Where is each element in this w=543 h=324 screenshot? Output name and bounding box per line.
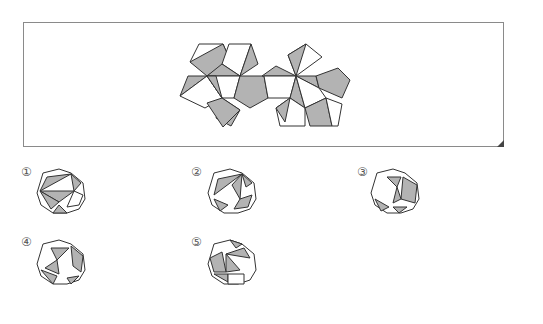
option-solid-1[interactable] bbox=[37, 169, 85, 213]
option-label-5[interactable]: ⑤ bbox=[191, 236, 202, 248]
option-label-2[interactable]: ② bbox=[191, 166, 202, 178]
option-solid-5[interactable] bbox=[208, 240, 256, 284]
diagram-canvas bbox=[0, 0, 543, 324]
option-solid-2[interactable] bbox=[208, 169, 256, 213]
net-face-shaded bbox=[234, 76, 268, 108]
option-solid-3[interactable] bbox=[371, 169, 419, 213]
net-face-shaded bbox=[207, 98, 240, 127]
polyhedron-net bbox=[180, 44, 350, 127]
net-face-shaded bbox=[262, 66, 296, 76]
answer-solids bbox=[37, 169, 419, 284]
option-label-4[interactable]: ④ bbox=[21, 236, 32, 248]
solid-face-face bbox=[228, 274, 244, 284]
option-label-1[interactable]: ① bbox=[21, 166, 32, 178]
option-solid-4[interactable] bbox=[37, 240, 85, 284]
option-label-3[interactable]: ③ bbox=[357, 166, 368, 178]
